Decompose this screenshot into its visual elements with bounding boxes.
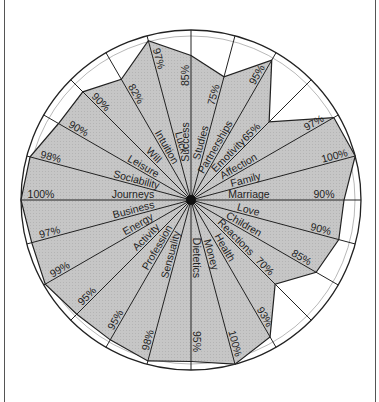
percentage-label: 85% [179, 65, 191, 86]
category-label-journeys: Journeys [112, 188, 155, 200]
category-label-marriage: Marriage [228, 188, 270, 200]
percentage-label: 95% [191, 331, 203, 352]
percentage-label: 100% [28, 188, 55, 200]
center-hub [186, 195, 196, 205]
hub-dot [186, 195, 196, 205]
category-label-dietetics: Dietetics [191, 238, 203, 278]
radial-percentage-chart: SuccessStudiesPartnershipsEmotivityAffec… [0, 0, 379, 402]
percentage-label: 90% [313, 188, 334, 200]
